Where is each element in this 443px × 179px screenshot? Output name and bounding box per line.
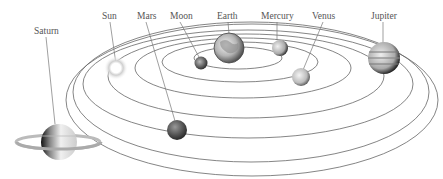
label-mercury: Mercury: [261, 11, 294, 21]
jupiter-icon: [368, 42, 400, 74]
orbit-5: [83, 30, 413, 138]
mercury-icon: [272, 40, 288, 56]
label-sun: Sun: [102, 11, 117, 21]
label-mars: Mars: [137, 11, 157, 21]
label-moon: Moon: [170, 11, 193, 21]
orbit-4: [108, 34, 384, 118]
solar-system-diagram: Saturn Sun Mars Moon Earth Mercury Venus…: [0, 0, 443, 179]
label-saturn: Saturn: [34, 26, 59, 36]
saturn-icon: [16, 124, 101, 160]
sun-icon: [104, 56, 128, 80]
label-venus: Venus: [312, 11, 336, 21]
venus-icon: [292, 68, 310, 86]
mars-icon: [167, 120, 187, 140]
moon-icon: [195, 57, 208, 70]
earth-icon: [214, 33, 244, 63]
label-jupiter: Jupiter: [371, 11, 398, 21]
label-earth: Earth: [217, 11, 238, 21]
